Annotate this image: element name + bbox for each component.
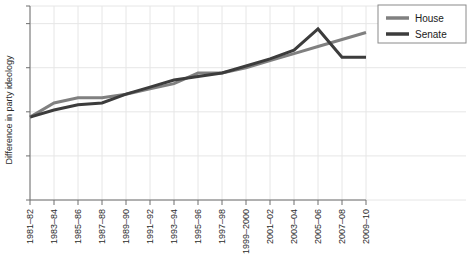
legend: HouseSenate xyxy=(378,5,466,43)
x-tick-label: 1997–98 xyxy=(217,209,227,244)
x-tick-label: 1981–82 xyxy=(25,209,35,244)
x-tick-label: 2005–06 xyxy=(313,209,323,244)
x-tick-label: 1999–2000 xyxy=(241,209,251,254)
x-tick-label: 1991–92 xyxy=(145,209,155,244)
chart-container: 1981–821983–841985–861987–881989–901991–… xyxy=(0,0,471,257)
legend-label-senate: Senate xyxy=(415,29,447,40)
x-tick-label: 2009–10 xyxy=(361,209,371,244)
x-tick-label: 1987–88 xyxy=(97,209,107,244)
x-tick-label: 2007–08 xyxy=(337,209,347,244)
legend-label-house: House xyxy=(415,13,444,24)
x-tick-label: 1985–86 xyxy=(73,209,83,244)
x-tick-label: 1983–84 xyxy=(49,209,59,244)
x-tick-label: 2001–02 xyxy=(265,209,275,244)
line-chart: 1981–821983–841985–861987–881989–901991–… xyxy=(0,0,471,257)
y-axis-title-group: Difference in party ideology xyxy=(4,55,14,164)
x-tick-label: 2003–04 xyxy=(289,209,299,244)
x-tick-label: 1989–90 xyxy=(121,209,131,244)
x-tick-label: 1995–96 xyxy=(193,209,203,244)
x-tick-label: 1993–94 xyxy=(169,209,179,244)
x-tick-labels-group: 1981–821983–841985–861987–881989–901991–… xyxy=(25,209,371,254)
y-axis-title: Difference in party ideology xyxy=(4,55,14,164)
